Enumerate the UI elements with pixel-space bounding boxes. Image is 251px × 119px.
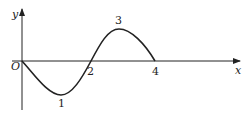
function-graph: y O x 1 2 3 4 [0,0,251,119]
x-axis-label: x [235,64,242,77]
point-label-4: 4 [152,65,159,78]
function-curve [22,29,155,95]
point-label-1: 1 [58,97,65,110]
y-axis-label: y [11,8,19,21]
origin-label: O [11,60,20,73]
point-label-3: 3 [115,14,122,27]
point-label-2: 2 [87,65,94,78]
